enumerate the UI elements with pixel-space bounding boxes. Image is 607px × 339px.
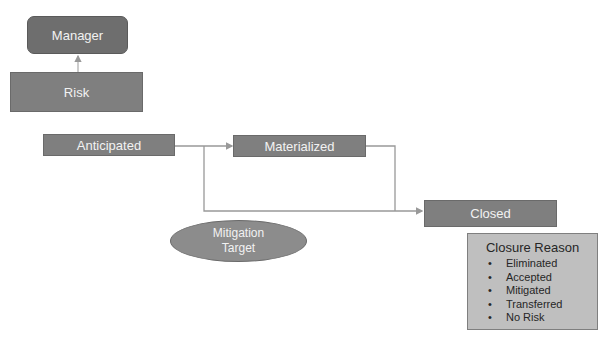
closure-reason-item: •Eliminated <box>506 257 597 271</box>
anticipated-label: Anticipated <box>77 138 141 153</box>
materialized-to-closed-connector <box>366 146 395 211</box>
mitigation-target-line2: Target <box>222 241 255 256</box>
closed-node[interactable]: Closed <box>424 200 557 227</box>
bullet-icon: • <box>488 311 492 325</box>
bullet-icon: • <box>488 298 492 312</box>
closed-label: Closed <box>470 206 510 221</box>
materialized-node[interactable]: Materialized <box>233 135 366 157</box>
mitigation-target-node[interactable]: Mitigation Target <box>170 220 307 262</box>
closure-reason-item: •Transferred <box>506 298 597 312</box>
materialized-label: Materialized <box>264 139 334 154</box>
manager-label: Manager <box>52 28 103 43</box>
closure-reason-item: •Accepted <box>506 271 597 285</box>
risk-label: Risk <box>64 85 89 100</box>
risk-node[interactable]: Risk <box>10 72 143 112</box>
bullet-icon: • <box>488 257 492 271</box>
closure-reason-title: Closure Reason <box>468 240 597 255</box>
anticipated-node[interactable]: Anticipated <box>43 134 175 156</box>
closure-reason-item: •No Risk <box>506 311 597 325</box>
closure-reason-item: •Mitigated <box>506 284 597 298</box>
bullet-icon: • <box>488 271 492 285</box>
mitigation-target-line1: Mitigation <box>213 226 264 241</box>
closure-reason-box: Closure Reason •Eliminated •Accepted •Mi… <box>467 233 598 330</box>
manager-node[interactable]: Manager <box>27 16 128 54</box>
closure-reason-list: •Eliminated •Accepted •Mitigated •Transf… <box>468 257 597 325</box>
bullet-icon: • <box>488 284 492 298</box>
